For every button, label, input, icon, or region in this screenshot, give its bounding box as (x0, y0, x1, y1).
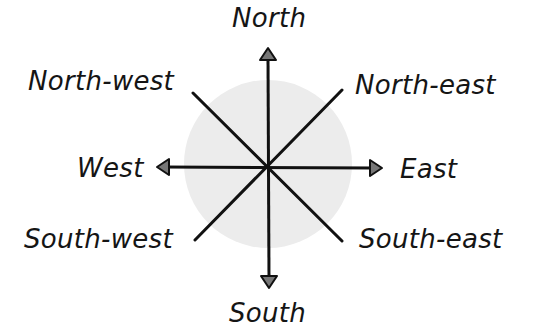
label-north-east: North-east (355, 72, 496, 98)
label-south-west: South-west (24, 226, 173, 252)
label-west: West (77, 155, 144, 181)
west-arrowhead-icon (157, 159, 169, 175)
north-arrowhead-icon (260, 48, 276, 60)
west-east-line (165, 167, 374, 168)
east-arrowhead-icon (370, 160, 382, 176)
compass-diagram: North North-east East South-east South S… (0, 0, 536, 327)
label-south-east: South-east (359, 226, 503, 252)
label-south: South (229, 300, 306, 326)
south-arrowhead-icon (261, 276, 277, 288)
label-north-west: North-west (28, 68, 174, 94)
label-east: East (400, 156, 457, 182)
label-north: North (232, 5, 306, 31)
